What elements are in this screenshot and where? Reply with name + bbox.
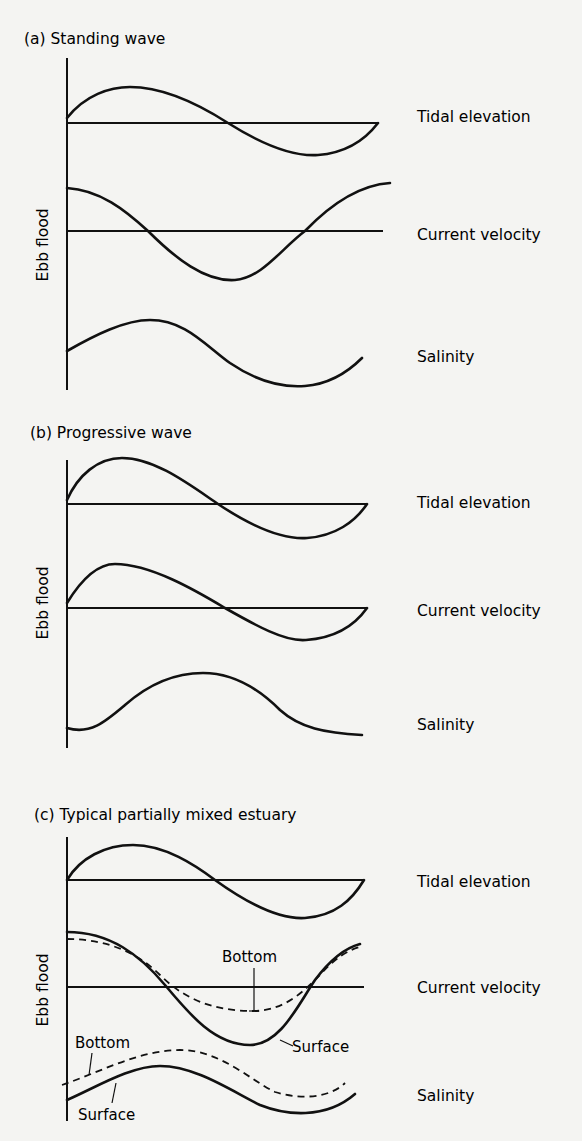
panel-b-velocity-curve <box>67 564 367 640</box>
panel-c-velocity-surface-curve <box>67 932 360 1045</box>
panel-c-velocity-label: Current velocity <box>417 979 541 997</box>
panel-c-tidal-label: Tidal elevation <box>416 873 531 891</box>
panel-c-velocity-bottom-label: Bottom <box>222 948 277 966</box>
panel-c-velocity-surface-label: Surface <box>292 1038 349 1056</box>
panel-b-progressive-wave: (b) Progressive wave Ebb flood Tidal ele… <box>30 424 541 748</box>
panel-c-salinity-label: Salinity <box>417 1087 474 1105</box>
panel-b-y-axis-label: Ebb flood <box>34 567 52 640</box>
panel-a-velocity-label: Current velocity <box>417 226 541 244</box>
panel-b-title: (b) Progressive wave <box>30 424 192 442</box>
panel-a-salinity-curve <box>67 320 362 386</box>
panel-c-velocity-bottom-curve <box>67 939 360 1011</box>
panel-b-tidal-curve <box>67 458 367 538</box>
panel-a-salinity-label: Salinity <box>417 348 474 366</box>
panel-c-partially-mixed-estuary: (c) Typical partially mixed estuary Ebb … <box>34 806 541 1124</box>
panel-c-salinity-surface-arrow <box>112 1083 116 1103</box>
panel-b-salinity-curve <box>67 673 362 735</box>
panel-c-title: (c) Typical partially mixed estuary <box>34 806 296 824</box>
panel-b-velocity-label: Current velocity <box>417 602 541 620</box>
panel-a-title: (a) Standing wave <box>24 30 165 48</box>
panel-b-salinity-label: Salinity <box>417 716 474 734</box>
panel-a-tidal-curve <box>67 87 378 155</box>
panel-c-salinity-bottom-label: Bottom <box>75 1034 130 1052</box>
panel-a-y-axis-label: Ebb flood <box>34 209 52 282</box>
panel-b-tidal-label: Tidal elevation <box>416 494 531 512</box>
panel-c-salinity-surface-label: Surface <box>78 1106 135 1124</box>
panel-c-y-axis-label: Ebb flood <box>34 954 52 1027</box>
panel-c-tidal-curve <box>67 845 364 918</box>
panel-a-standing-wave: (a) Standing wave Ebb flood Tidal elevat… <box>24 30 541 390</box>
panel-c-salinity-bottom-arrow <box>89 1053 92 1075</box>
panel-c-salinity-bottom-curve <box>62 1050 345 1097</box>
tidal-diagram: (a) Standing wave Ebb flood Tidal elevat… <box>0 0 582 1141</box>
panel-a-tidal-label: Tidal elevation <box>416 108 531 126</box>
